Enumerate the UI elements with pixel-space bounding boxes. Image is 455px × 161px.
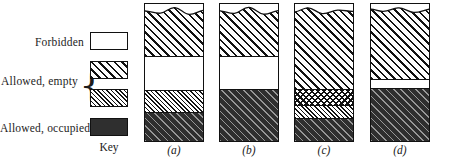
band-layer-allowed-occupied [371, 88, 429, 141]
key-caption: Key [90, 141, 128, 153]
legend-label-allowed-empty: Allowed, empty [0, 75, 78, 87]
band-layer-allowed-occupied [220, 89, 278, 141]
legend-swatch-allowed-empty-coarse [90, 61, 128, 79]
band-layer-allowed-empty [371, 4, 429, 79]
legend-label-forbidden: Forbidden [8, 36, 84, 48]
band-layer-forbidden [371, 79, 429, 87]
bar-caption-a: (a) [144, 144, 204, 156]
bar-caption-c: (c) [294, 144, 354, 156]
band-layer-allowed-empty [220, 4, 278, 56]
legend-swatch-forbidden [90, 32, 128, 50]
band-layer-allowed-partly-occupied [295, 89, 353, 105]
bar-caption-b: (b) [219, 144, 279, 156]
band-layer-allowed-empty-fine [145, 90, 203, 112]
legend-swatch-allowed-empty-fine [90, 89, 128, 107]
band-diagram-a [144, 3, 204, 142]
figure-canvas: Forbidden Allowed, empty { Allowed, occu… [0, 0, 455, 161]
band-layer-allowed-occupied [295, 118, 353, 141]
legend-swatch-allowed-occupied [90, 118, 128, 136]
band-diagram-b [219, 3, 279, 142]
band-layer-allowed-occupied [145, 112, 203, 141]
band-diagram-d [370, 3, 430, 142]
band-layer-forbidden [145, 56, 203, 90]
legend-label-allowed-occupied: Allowed, occupied [0, 122, 84, 134]
band-diagram-c [294, 3, 354, 142]
band-layer-forbidden [220, 56, 278, 89]
band-layer-allowed-empty [145, 4, 203, 56]
legend-key: Forbidden Allowed, empty { Allowed, occu… [0, 0, 140, 161]
band-layer-allowed-empty-fine [295, 105, 353, 117]
band-layer-allowed-empty [295, 4, 353, 89]
bar-caption-d: (d) [370, 144, 430, 156]
